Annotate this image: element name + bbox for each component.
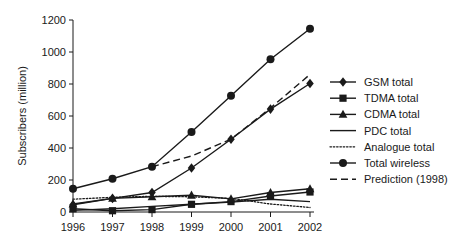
marker-circle — [306, 25, 314, 33]
y-tick-label: 800 — [48, 78, 66, 90]
y-tick-label: 400 — [48, 142, 66, 154]
marker-circle — [188, 128, 196, 136]
x-tick-label: 2000 — [219, 221, 243, 233]
y-tick-label: 1200 — [42, 14, 66, 26]
x-tick-label: 1997 — [100, 221, 124, 233]
x-tick-label: 1999 — [179, 221, 203, 233]
x-tick-label: 2002 — [298, 221, 322, 233]
y-tick-label: 0 — [60, 206, 66, 218]
legend-label: Prediction (1998) — [364, 173, 448, 185]
x-tick-label: 1998 — [140, 221, 164, 233]
marker-circle — [267, 55, 275, 63]
legend-label: CDMA total — [364, 108, 420, 120]
chart-background — [0, 0, 461, 247]
legend-label: Total wireless — [364, 157, 431, 169]
legend-label: Analogue total — [364, 141, 434, 153]
x-tick-label: 2001 — [258, 221, 282, 233]
marker-circle — [69, 185, 77, 193]
legend-label: GSM total — [364, 76, 413, 88]
chart-figure: 0200400600800100012001996199719981999200… — [0, 0, 461, 247]
line-chart-canvas: 0200400600800100012001996199719981999200… — [0, 0, 461, 247]
y-tick-label: 200 — [48, 174, 66, 186]
marker-circle — [109, 175, 117, 183]
legend-label: TDMA total — [364, 92, 418, 104]
marker-circle — [227, 92, 235, 100]
legend-label: PDC total — [364, 125, 411, 137]
marker-circle — [339, 159, 347, 167]
y-tick-label: 600 — [48, 110, 66, 122]
y-axis-title: Subscribers (million) — [16, 66, 28, 166]
marker-square — [339, 95, 346, 102]
x-tick-label: 1996 — [61, 221, 85, 233]
y-tick-label: 1000 — [42, 46, 66, 58]
